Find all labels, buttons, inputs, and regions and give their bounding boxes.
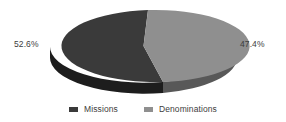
chart-legend: Missions Denominations: [0, 100, 286, 118]
legend-label-denominations: Denominations: [159, 105, 217, 114]
legend-swatch-denominations-icon: [144, 107, 153, 112]
legend-item-missions[interactable]: Missions: [69, 105, 118, 114]
pie-chart-figure: 52.6% 47.4% Missions Denominations: [0, 0, 286, 122]
pie-top-faces: [61, 10, 249, 82]
legend-item-denominations[interactable]: Denominations: [144, 105, 217, 114]
data-label-missions: 52.6%: [14, 40, 39, 49]
legend-label-missions: Missions: [84, 105, 118, 114]
pie-slice-denominations: [144, 10, 250, 82]
legend-swatch-missions-icon: [69, 107, 78, 112]
data-label-denominations: 47.4%: [240, 40, 265, 49]
